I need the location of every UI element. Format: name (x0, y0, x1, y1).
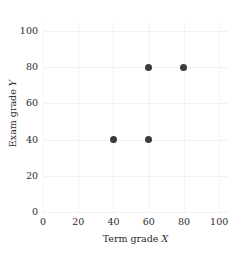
gridline-horizontal (43, 212, 228, 213)
x-axis-label: Term grade X (43, 233, 228, 244)
gridline-vertical (149, 22, 150, 212)
gridline-horizontal (43, 103, 228, 104)
scatter-point (180, 64, 187, 71)
scatter-point (145, 64, 152, 71)
scatter-point (110, 136, 117, 143)
gridline-horizontal (43, 31, 228, 32)
y-axis-label-text: Exam grade (7, 89, 18, 147)
gridline-horizontal (43, 176, 228, 177)
plot-area (43, 22, 228, 212)
y-axis-label: Exam grade Y (7, 19, 18, 209)
x-tick-label: 60 (129, 216, 169, 227)
gridline-vertical (184, 22, 185, 212)
gridline-vertical (43, 22, 44, 212)
x-tick-label: 80 (164, 216, 204, 227)
x-tick-label: 0 (23, 216, 63, 227)
gridline-vertical (113, 22, 114, 212)
x-tick-label: 40 (93, 216, 133, 227)
gridline-horizontal (43, 67, 228, 68)
y-axis-label-var-glyph: Y (7, 80, 18, 86)
scatter-plot-figure: 020406080100 020406080100 Term grade X E… (0, 0, 247, 257)
gridline-horizontal (43, 140, 228, 141)
y-axis-label-variable (7, 86, 18, 89)
x-axis-label-var-glyph: X (162, 233, 169, 244)
x-tick-label: 100 (199, 216, 239, 227)
gridline-vertical (219, 22, 220, 212)
scatter-point (145, 136, 152, 143)
x-axis-label-text: Term grade (103, 233, 159, 244)
x-tick-label: 20 (58, 216, 98, 227)
gridline-vertical (78, 22, 79, 212)
